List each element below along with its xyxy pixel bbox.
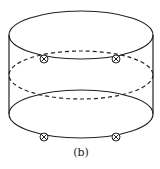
cylinder-drawing xyxy=(0,0,160,169)
middle-dashed-ellipse xyxy=(9,51,153,99)
bottom-ellipse xyxy=(9,90,153,138)
figure-label: (b) xyxy=(0,146,160,159)
circled-cross-icon xyxy=(112,133,120,141)
circled-cross-icon xyxy=(112,55,120,63)
circled-cross-icon xyxy=(40,133,48,141)
top-ellipse xyxy=(9,11,153,59)
cylinder-diagram: (b) xyxy=(0,0,160,169)
circled-cross-markers xyxy=(40,55,120,141)
circled-cross-icon xyxy=(40,55,48,63)
